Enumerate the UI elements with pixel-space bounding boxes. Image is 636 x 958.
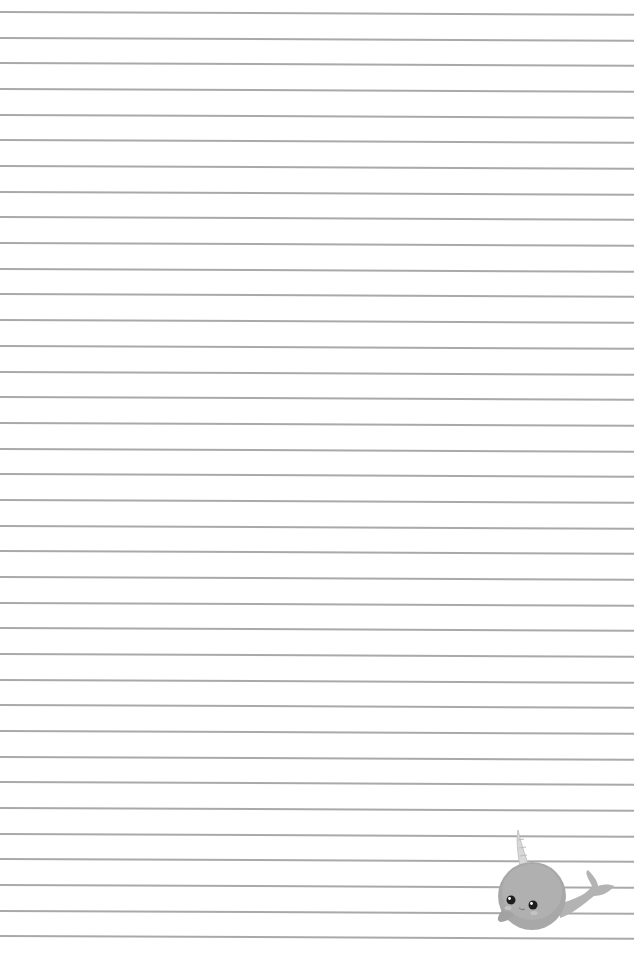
ruled-line <box>0 935 634 939</box>
ruled-line <box>0 422 634 426</box>
ruled-line <box>0 268 634 272</box>
ruled-line <box>0 448 634 452</box>
ruled-line <box>0 11 634 15</box>
ruled-line <box>0 730 634 734</box>
ruled-line <box>0 807 634 811</box>
ruled-line <box>0 550 634 554</box>
ruled-line <box>0 781 634 785</box>
ruled-line <box>0 653 634 657</box>
ruled-line <box>0 88 634 92</box>
lined-paper <box>0 0 636 958</box>
ruled-line <box>0 114 634 118</box>
narwhal-icon <box>492 826 618 936</box>
ruled-line <box>0 679 634 683</box>
ruled-line <box>0 576 634 580</box>
ruled-line <box>0 319 634 323</box>
ruled-line <box>0 139 634 143</box>
ruled-line <box>0 396 634 400</box>
ruled-line <box>0 704 634 708</box>
ruled-line <box>0 345 634 349</box>
ruled-line <box>0 191 634 195</box>
ruled-line <box>0 499 634 503</box>
ruled-line <box>0 293 634 297</box>
ruled-line <box>0 602 634 606</box>
ruled-line <box>0 242 634 246</box>
ruled-line <box>0 37 634 41</box>
ruled-line <box>0 473 634 477</box>
ruled-line <box>0 525 634 529</box>
ruled-line <box>0 62 634 66</box>
ruled-line <box>0 371 634 375</box>
ruled-line <box>0 627 634 631</box>
ruled-line <box>0 216 634 220</box>
ruled-line <box>0 756 634 760</box>
ruled-line <box>0 165 634 169</box>
